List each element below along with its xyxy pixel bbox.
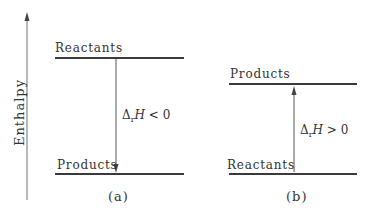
delta-variable: H [313, 123, 323, 137]
y-axis-arrowhead-icon [25, 12, 30, 21]
delta-relation: < 0 [145, 108, 170, 122]
panel-a-lower-label: Products [57, 159, 118, 171]
panel-a-upper-label: Reactants [55, 42, 123, 54]
delta-symbol: Δ [122, 108, 131, 122]
panel-b-lower-level-line [229, 173, 357, 175]
panel-b-caption: (b) [286, 190, 307, 203]
delta-relation: > 0 [323, 123, 348, 137]
panel-a-caption: (a) [108, 190, 129, 203]
panel-b-delta-h: ΔrH > 0 [300, 124, 348, 139]
panel-b-upper-label: Products [230, 68, 291, 80]
y-axis-label: Enthalpy [13, 79, 26, 146]
panel-a-lower-level-line [55, 173, 184, 175]
panel-a-upper-level-line [55, 57, 184, 59]
panel-b-upper-level-line [229, 83, 357, 85]
delta-symbol: Δ [300, 123, 309, 137]
panel-b-lower-label: Reactants [227, 159, 295, 171]
delta-variable: H [135, 108, 145, 122]
diagram-arrows [0, 0, 367, 215]
arrow-up-icon [292, 86, 297, 95]
panel-a-delta-h: ΔrH < 0 [122, 109, 170, 124]
